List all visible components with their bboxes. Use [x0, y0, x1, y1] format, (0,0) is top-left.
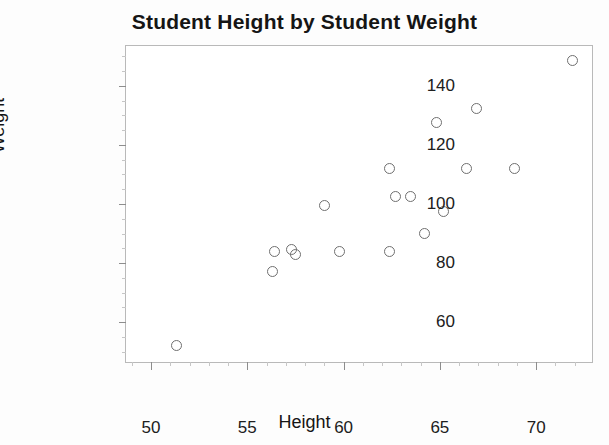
y-axis-tick-label: 140 [395, 76, 455, 96]
data-point [567, 55, 578, 66]
data-point [384, 163, 395, 174]
y-axis-tick [119, 263, 126, 264]
y-axis-minor-tick [122, 101, 126, 102]
x-axis-minor-tick [401, 362, 402, 366]
x-axis-minor-tick [324, 362, 325, 366]
y-axis-tick [119, 86, 126, 87]
x-axis-minor-tick [555, 362, 556, 366]
x-axis-minor-tick [363, 362, 364, 366]
y-axis-minor-tick [122, 115, 126, 116]
data-point [419, 228, 430, 239]
x-axis-minor-tick [170, 362, 171, 366]
x-axis-minor-tick [575, 362, 576, 366]
y-axis-minor-tick [122, 248, 126, 249]
y-axis-minor-tick [122, 189, 126, 190]
data-point [269, 246, 280, 257]
data-point [290, 249, 301, 260]
data-point [334, 246, 345, 257]
x-axis-minor-tick [421, 362, 422, 366]
x-axis-minor-tick [228, 362, 229, 366]
x-axis-minor-tick [459, 362, 460, 366]
data-point [267, 266, 278, 277]
x-axis-tick [151, 362, 152, 370]
x-axis-minor-tick [498, 362, 499, 366]
y-axis-minor-tick [122, 174, 126, 175]
plot-area [126, 46, 592, 362]
data-point [384, 246, 395, 257]
data-point [431, 117, 442, 128]
x-axis-minor-tick [209, 362, 210, 366]
data-point [471, 103, 482, 114]
y-axis-minor-tick [122, 337, 126, 338]
x-axis-tick [247, 362, 248, 370]
data-point [319, 200, 330, 211]
y-axis-minor-tick [122, 160, 126, 161]
y-axis-minor-tick [122, 307, 126, 308]
y-axis-minor-tick [122, 293, 126, 294]
data-point [171, 340, 182, 351]
y-axis-tick [119, 145, 126, 146]
chart-title: Student Height by Student Weight [0, 10, 609, 34]
y-axis-tick-label: 60 [395, 312, 455, 332]
y-axis-minor-tick [122, 219, 126, 220]
x-axis-tick [440, 362, 441, 370]
x-axis-tick [536, 362, 537, 370]
y-axis-minor-tick [122, 56, 126, 57]
x-axis-minor-tick [132, 362, 133, 366]
x-axis-minor-tick [190, 362, 191, 366]
y-axis-tick-label: 80 [395, 253, 455, 273]
y-axis-title: Weight [0, 46, 9, 206]
data-point [509, 163, 520, 174]
y-axis-minor-tick [122, 130, 126, 131]
y-axis-tick-label: 100 [395, 194, 455, 214]
x-axis-minor-tick [517, 362, 518, 366]
x-axis-title: Height [0, 412, 609, 433]
data-point [461, 163, 472, 174]
plot-frame: 60801001201405055606570 [125, 45, 593, 363]
y-axis-tick [119, 204, 126, 205]
x-axis-minor-tick [286, 362, 287, 366]
scatter-chart: Student Height by Student Weight 6080100… [0, 0, 609, 445]
y-axis-tick [119, 322, 126, 323]
x-axis-minor-tick [478, 362, 479, 366]
x-axis-minor-tick [267, 362, 268, 366]
x-axis-minor-tick [305, 362, 306, 366]
y-axis-minor-tick [122, 71, 126, 72]
y-axis-minor-tick [122, 234, 126, 235]
y-axis-minor-tick [122, 278, 126, 279]
y-axis-tick-label: 120 [395, 135, 455, 155]
y-axis-minor-tick [122, 352, 126, 353]
x-axis-minor-tick [382, 362, 383, 366]
x-axis-tick [344, 362, 345, 370]
